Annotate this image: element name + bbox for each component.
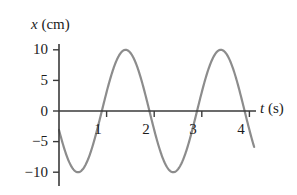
ytick-label-minus-10: −10 (2, 165, 48, 180)
xtick-label-1: 1 (88, 122, 108, 137)
ytick-label-minus-5: −5 (6, 134, 48, 149)
x-axis-ticks (107, 111, 250, 117)
xtick-label-4: 4 (231, 122, 251, 137)
xtick-label-2: 2 (136, 122, 156, 137)
ytick-label-0: 0 (10, 104, 48, 119)
y-axis-unit: (cm) (41, 16, 69, 32)
xtick-label-3: 3 (183, 122, 203, 137)
x-axis-unit: (s) (268, 100, 284, 116)
ytick-label-10: 10 (10, 42, 48, 57)
y-axis-ticks (53, 50, 59, 172)
y-axis-variable: x (31, 16, 38, 32)
x-axis-title: t (s) (260, 101, 284, 116)
oscillation-graph-figure: 10 5 0 −5 −10 1 2 3 4 x (cm) t (s) (0, 0, 297, 195)
ytick-label-5: 5 (10, 73, 48, 88)
y-axis-title: x (cm) (31, 17, 70, 32)
